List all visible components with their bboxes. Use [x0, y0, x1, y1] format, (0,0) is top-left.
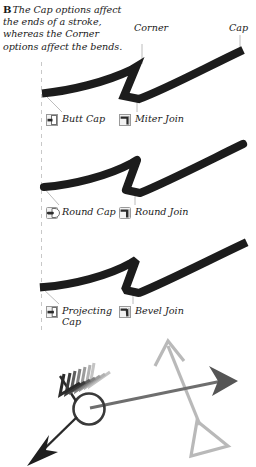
option-butt-cap[interactable]: Butt Cap [46, 113, 105, 126]
butt-cap-icon [46, 114, 58, 126]
circle-node-icon [74, 394, 105, 425]
mid-arrow-shaft [90, 381, 222, 408]
bevel-join-icon [119, 306, 131, 318]
option-label-round-join: Round Join [135, 206, 188, 217]
option-label-butt-cap: Butt Cap [62, 113, 105, 124]
option-label-bevel-join: Bevel Join [135, 305, 184, 316]
stroke-sample-round [44, 144, 243, 193]
option-round-join[interactable]: Round Join [119, 206, 188, 219]
solid-triangle-arrowhead-icon [209, 366, 238, 396]
option-label-round-cap: Round Cap [62, 206, 116, 217]
arrowhead-sample-illustration [27, 341, 238, 466]
option-label-projecting-cap: Projecting Cap [62, 305, 120, 328]
round-cap-icon [46, 207, 58, 219]
option-miter-join[interactable]: Miter Join [119, 113, 184, 126]
feathered-arrowhead-icon [60, 363, 110, 395]
miter-join-icon [119, 114, 131, 126]
open-triangle-arrowhead-icon [191, 421, 228, 456]
option-bevel-join[interactable]: Bevel Join [119, 305, 184, 318]
round-join-icon [119, 207, 131, 219]
option-projecting-cap[interactable]: Projecting Cap [46, 305, 120, 328]
figure-canvas: BThe Cap options affect the ends of a st… [0, 0, 256, 467]
stroke-examples-illustration [0, 0, 256, 467]
option-label-miter-join: Miter Join [135, 113, 184, 124]
stroke-sample-bevel [44, 244, 243, 293]
projecting-cap-icon [46, 306, 58, 318]
option-round-cap[interactable]: Round Cap [46, 206, 116, 219]
stroke-sample-miter [42, 50, 243, 99]
